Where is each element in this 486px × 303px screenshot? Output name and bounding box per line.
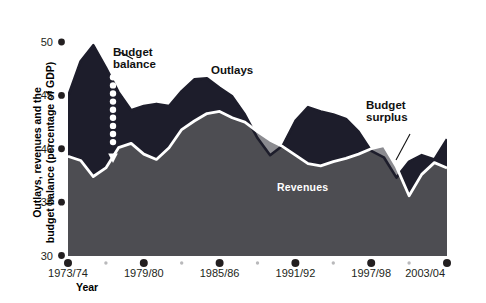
x-tick-dot-major xyxy=(291,259,299,267)
y-tick-dot xyxy=(58,252,65,259)
x-tick-dot-minor xyxy=(407,261,410,264)
x-tick-dot-minor xyxy=(256,261,259,264)
x-tick-label: 1991/92 xyxy=(276,267,316,279)
x-tick-dot-major xyxy=(64,259,72,267)
budget-balance-arrow-dot xyxy=(110,123,116,129)
x-tick-dot-minor xyxy=(332,261,335,264)
budget-balance-arrow-dot xyxy=(110,98,116,104)
x-tick-label: 1985/86 xyxy=(200,267,240,279)
outlays-annotation: Outlays xyxy=(211,64,253,76)
x-tick-label: 1973/74 xyxy=(48,267,88,279)
y-axis-title-line1: Outlays, revenues and the xyxy=(31,45,44,260)
budget-surplus-annotation: Budget surplus xyxy=(366,99,408,123)
y-axis-title: Outlays, revenues and the budget balance… xyxy=(31,45,56,260)
y-tick-dot xyxy=(58,39,65,46)
budget-balance-annotation: Budget balance xyxy=(113,46,156,70)
chart-canvas: 3035404550 1973/741979/801985/861991/921… xyxy=(0,0,486,303)
budget-chart-figure: 3035404550 1973/741979/801985/861991/921… xyxy=(0,0,486,303)
x-axis-title-label: Year xyxy=(76,281,98,293)
x-tick-dot-minor xyxy=(180,261,183,264)
budget-balance-arrow-dot xyxy=(110,74,116,80)
budget-balance-arrow-dot xyxy=(110,90,116,96)
x-tick-dot-major xyxy=(216,259,224,267)
x-axis-title: Year xyxy=(76,281,98,293)
x-tick-label: 2003/04 xyxy=(405,267,445,279)
budget-balance-arrow-dot xyxy=(110,82,116,88)
x-tick-label: 1997/98 xyxy=(351,267,391,279)
budget-surplus-label-line1: Budget xyxy=(366,99,408,111)
budget-balance-arrow-dot xyxy=(110,139,116,145)
revenues-annotation: Revenues xyxy=(277,181,328,193)
outlays-label: Outlays xyxy=(211,64,253,76)
budget-balance-arrow-dot xyxy=(110,131,116,137)
x-tick-label: 1979/80 xyxy=(124,267,164,279)
y-tick-dot xyxy=(58,145,65,152)
x-tick-dot-major xyxy=(367,259,375,267)
revenues-label: Revenues xyxy=(277,181,328,193)
x-tick-dot-minor xyxy=(104,261,107,264)
x-tick-dot-major xyxy=(443,259,451,267)
y-tick-dot xyxy=(58,92,65,99)
budget-surplus-label-line2: surplus xyxy=(366,111,408,123)
x-tick-dot-major xyxy=(140,259,148,267)
budget-balance-label-line2: balance xyxy=(113,58,156,70)
budget-balance-arrow-dot xyxy=(110,115,116,121)
budget-balance-arrow-dot xyxy=(110,107,116,113)
y-axis-title-line2: budget balance (percentage of GDP) xyxy=(44,45,57,260)
budget-balance-label-line1: Budget xyxy=(113,46,156,58)
y-tick-dot xyxy=(58,199,65,206)
